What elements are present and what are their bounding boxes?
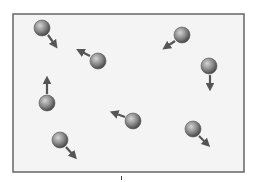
particle-ball — [201, 58, 217, 74]
particle-ball — [174, 27, 190, 43]
particle-ball — [52, 132, 68, 148]
tick-mark — [121, 176, 122, 180]
particle-diagram — [0, 0, 254, 182]
particle-ball — [90, 53, 106, 69]
particle-ball — [125, 113, 141, 129]
particle-ball — [185, 121, 201, 137]
particle-ball — [34, 20, 50, 36]
particle-ball — [39, 95, 55, 111]
